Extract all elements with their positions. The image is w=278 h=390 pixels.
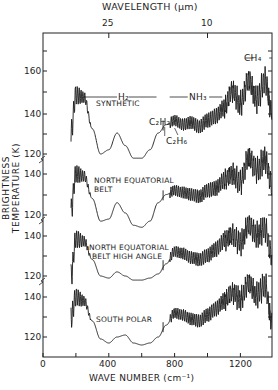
x-axis-title: WAVE NUMBER (cm⁻¹) bbox=[89, 373, 194, 383]
spectra-curves bbox=[71, 66, 272, 345]
ch4-label: CH₄ bbox=[244, 53, 262, 63]
top-tick-25: 25 bbox=[102, 18, 113, 28]
y-tick-120-b: 120 bbox=[24, 210, 41, 220]
c2h2-label: C₂H₂ bbox=[149, 117, 170, 127]
c2h6-label: C₂H₆ bbox=[166, 136, 187, 146]
panel-label-neb-line2: BELT bbox=[94, 185, 112, 194]
y-tick-120-a: 120 bbox=[24, 149, 41, 159]
y-tick-140-a: 140 bbox=[24, 109, 41, 119]
y-tick-140-b: 140 bbox=[24, 169, 41, 179]
panel-label-neb-line1: NORTH EQUATORIAL bbox=[94, 176, 174, 185]
y-tick-120-d: 120 bbox=[24, 332, 41, 342]
x-tick-400: 400 bbox=[99, 359, 116, 369]
x-tick-1200: 1200 bbox=[229, 359, 252, 369]
y-tick-120-c: 120 bbox=[24, 271, 41, 281]
y-tick-140-c: 140 bbox=[24, 231, 41, 241]
y-tick-160: 160 bbox=[24, 66, 41, 76]
y-tick-140-d: 140 bbox=[24, 292, 41, 302]
panel-label-synthetic: SYNTHETIC bbox=[96, 99, 140, 108]
panel-label-nebha-line1: NORTH EQUATORIAL bbox=[89, 243, 169, 252]
x-tick-0: 0 bbox=[40, 359, 46, 369]
x-tick-800: 800 bbox=[166, 359, 183, 369]
top-axis-title: WAVELENGTH (μm) bbox=[102, 1, 198, 12]
panel-label-south-polar: SOUTH POLAR bbox=[96, 315, 152, 324]
nh3-label: NH₃ bbox=[189, 92, 207, 102]
y-axis-title: BRIGHTNESS TEMPERATURE (K) bbox=[1, 123, 21, 253]
panel-label-nebha-line2: BELT HIGH ANGLE bbox=[92, 252, 162, 261]
plot-area bbox=[0, 0, 278, 390]
top-tick-10: 10 bbox=[201, 18, 212, 28]
chart-figure: WAVELENGTH (μm) 25 10 BRIGHTNESS TEMPERA… bbox=[0, 0, 278, 390]
plot-frame bbox=[43, 33, 272, 357]
